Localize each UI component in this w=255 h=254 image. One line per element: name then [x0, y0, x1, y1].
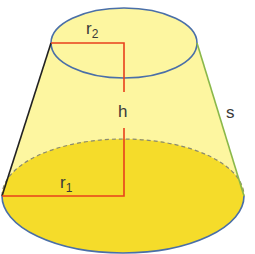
label-h: h [118, 102, 127, 121]
label-s: s [226, 103, 235, 122]
frustum-diagram: r2 h s r1 [0, 0, 255, 254]
